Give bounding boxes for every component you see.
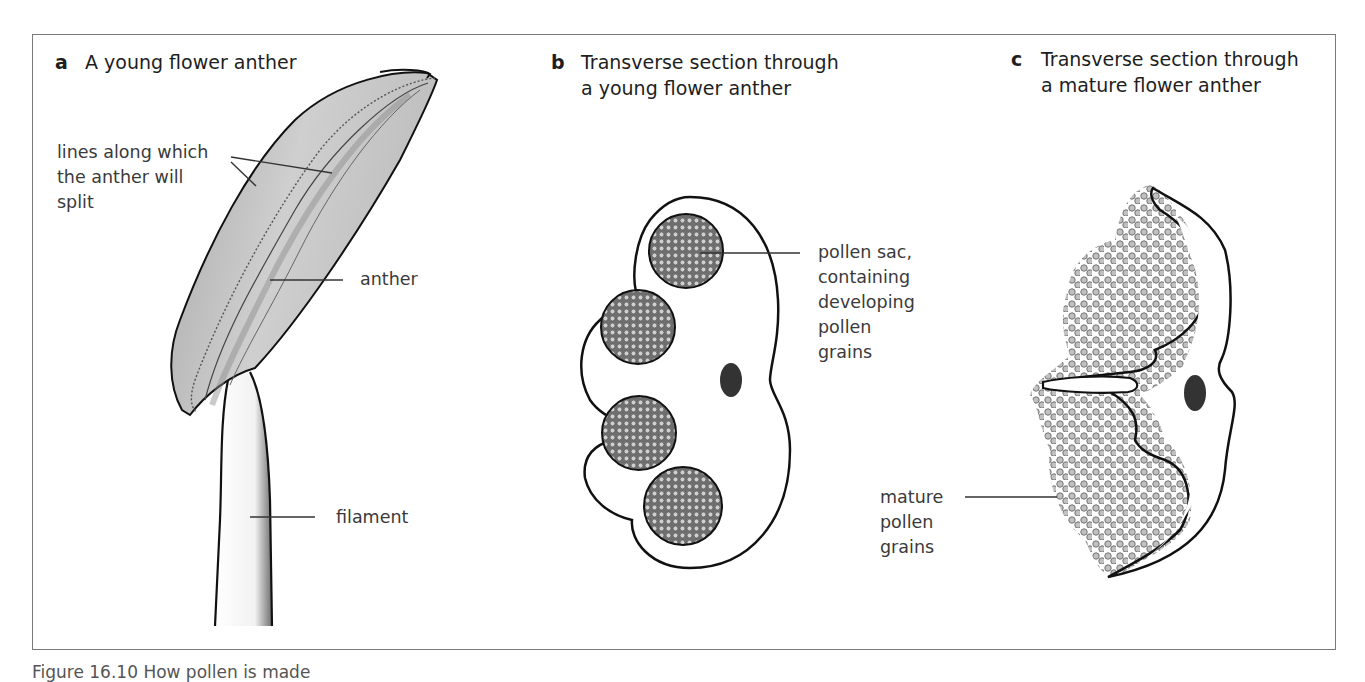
label-filament: filament bbox=[336, 505, 408, 530]
figure-caption: Figure 16.10 How pollen is made bbox=[32, 662, 310, 682]
filament-drawing bbox=[215, 369, 272, 626]
label-pollen-sac: pollen sac, containing developing pollen… bbox=[818, 240, 915, 365]
mature-anther-section bbox=[1030, 185, 1235, 578]
label-anther: anther bbox=[360, 267, 418, 292]
anther-drawing bbox=[171, 70, 437, 415]
label-mature-pollen: mature pollen grains bbox=[880, 485, 943, 560]
label-split-lines: lines along which the anther will split bbox=[57, 140, 208, 215]
